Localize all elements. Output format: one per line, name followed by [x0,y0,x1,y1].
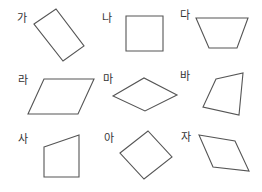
shape-label-ra: 라 [18,74,28,87]
shape-sa: 사 [18,133,79,177]
shape-label-da: 다 [180,9,190,22]
shape-ra: 라 [18,74,94,114]
shape-label-ma: 마 [103,73,113,86]
shape-label-sa: 사 [18,133,28,146]
rhombus-ma [113,78,177,111]
shape-ba: 바 [180,70,243,115]
shape-ja: 자 [181,131,249,171]
quadrilateral-ba [203,73,243,115]
parallelogram-ra [28,79,94,114]
shape-label-ja: 자 [181,131,191,144]
shape-label-ga: 가 [17,12,27,25]
shape-label-ba: 바 [180,70,190,83]
rectangle-ga [34,9,84,61]
shape-da: 다 [180,9,248,48]
square-na [126,16,163,51]
shape-label-a: 아 [104,132,114,145]
shape-ma: 마 [103,73,177,111]
shape-a: 아 [104,131,172,179]
shapes-figure: 가 나 다 라 마 바 사 아 자 [0,0,262,192]
square-a [120,131,172,179]
shape-label-na: 나 [102,12,112,25]
parallelogram-ja [199,135,249,171]
shape-na: 나 [102,12,163,51]
trapezoid-sa [44,135,79,177]
shape-ga: 가 [17,9,84,61]
trapezoid-da [196,18,248,48]
